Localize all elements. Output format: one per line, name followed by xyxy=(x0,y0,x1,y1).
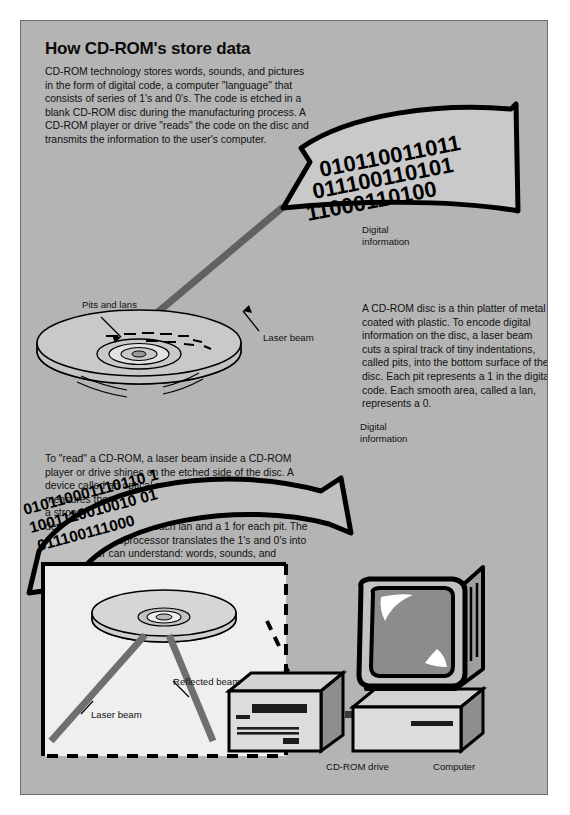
computer-label: Computer xyxy=(433,761,475,773)
laser-beam-label: Laser beam xyxy=(263,332,314,344)
pits-and-lans-label: Pits and lans xyxy=(82,299,137,311)
cdrom-drive-label: CD-ROM drive xyxy=(326,761,389,773)
top-arrow-caption: Digital information xyxy=(362,224,409,248)
computer-monitor xyxy=(353,567,483,751)
top-arrow-graphic: 010110011011 011100110101 11000110100 xyxy=(21,21,548,795)
disc-diagram xyxy=(37,305,259,397)
cdrom-drive xyxy=(229,673,352,751)
infographic-page: How CD-ROM's store data CD-ROM technolog… xyxy=(0,0,570,815)
infographic-panel: How CD-ROM's store data CD-ROM technolog… xyxy=(20,20,548,795)
reflected-beam-label: Reflected beam xyxy=(173,676,240,688)
bottom-arrow-caption: Digital information xyxy=(360,421,407,445)
inset-laser-beam-label: Laser beam xyxy=(91,709,142,721)
